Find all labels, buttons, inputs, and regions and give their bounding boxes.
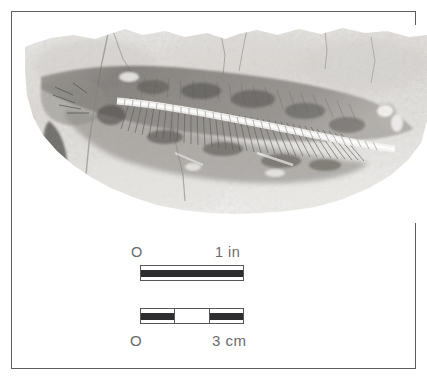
- inch-scale-end-label: 1 in: [215, 244, 240, 260]
- cm-scale-end-label: 3 cm: [212, 332, 247, 349]
- cm-scale-segment: [141, 309, 174, 323]
- cm-scale-labels: O 3 cm: [12, 332, 417, 354]
- cm-scale-segment: [209, 309, 243, 323]
- inch-scale-bar-segments: [141, 266, 243, 280]
- fossil-photo-graphic: [25, 25, 427, 223]
- inch-scale-zero-label: O: [131, 244, 143, 260]
- inch-scale-segment: [141, 266, 243, 280]
- fossil-specimen-photograph: [25, 25, 427, 223]
- scale-bar-block: O 1 in O 3 cm: [12, 244, 417, 263]
- cm-scale-segment: [174, 309, 208, 323]
- cm-scale-bar-segments: [141, 309, 243, 323]
- inch-scale-labels: O 1 in: [12, 244, 417, 263]
- cm-scale-bar: [140, 308, 244, 324]
- cm-scale-zero-label: O: [130, 332, 142, 349]
- plate-frame: O 1 in O 3 cm: [11, 11, 416, 369]
- inch-scale-bar: [140, 265, 244, 281]
